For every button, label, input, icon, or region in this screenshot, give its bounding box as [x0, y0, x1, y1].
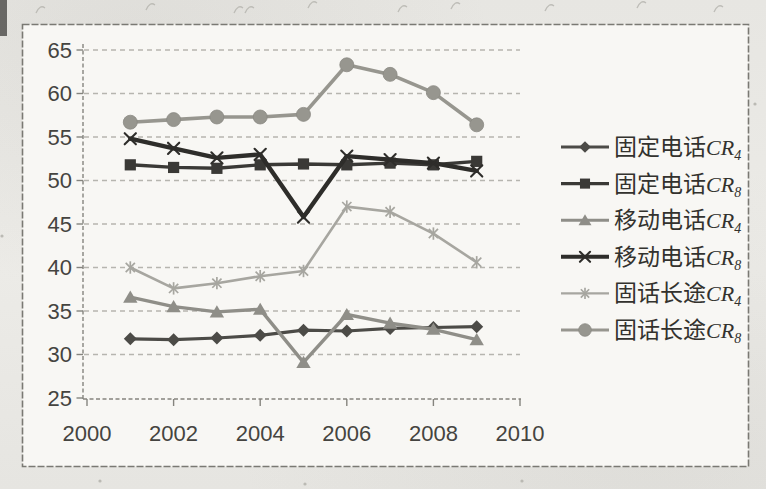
legend-label-mobile-phone-cr4: 移动电话CR4: [614, 208, 741, 236]
square-marker: [125, 159, 136, 170]
circle-icon: [579, 324, 592, 337]
circle-marker: [167, 113, 181, 127]
scan-speck: [753, 102, 756, 105]
y-axis-tick-label: 45: [48, 212, 72, 237]
scan-mark: [308, 2, 317, 8]
circle-marker: [123, 115, 137, 129]
y-axis-tick-label: 60: [48, 81, 72, 106]
y-axis-tick-label: 40: [48, 255, 72, 280]
scan-mark: [714, 6, 723, 12]
scan-mark: [545, 5, 554, 11]
square-marker: [168, 162, 179, 173]
circle-marker: [297, 107, 311, 121]
legend-label-fixed-phone-cr4: 固定电话CR4: [614, 135, 741, 163]
scan-speck: [98, 479, 101, 482]
circle-marker: [253, 110, 267, 124]
legend-label-fixed-phone-cr8: 固定电话CR8: [614, 172, 741, 200]
line-chart: 2530354045505560652000200220042006200820…: [0, 0, 766, 489]
circle-marker: [470, 118, 484, 132]
legend-label-fixedline-longdistance-cr4: 固话长途CR4: [614, 281, 741, 309]
scan-speck: [0, 234, 3, 237]
square-marker: [471, 156, 482, 167]
x-axis-tick-label: 2000: [63, 421, 112, 446]
square-marker: [211, 163, 222, 174]
scan-mark: [36, 7, 45, 13]
y-axis-tick-label: 50: [48, 168, 72, 193]
scan-mark: [398, 6, 407, 12]
scan-speck: [303, 482, 306, 485]
scan-speck: [520, 479, 523, 482]
square-icon: [580, 179, 590, 189]
square-marker: [298, 158, 309, 169]
scan-mark: [234, 7, 243, 13]
y-axis-tick-label: 65: [48, 38, 72, 63]
circle-marker: [210, 110, 224, 124]
y-axis-tick-label: 55: [48, 125, 72, 150]
scan-smudge: [0, 0, 7, 36]
legend-label-fixedline-longdistance-cr8: 固话长途CR8: [614, 318, 741, 346]
x-axis-tick-label: 2002: [149, 421, 198, 446]
x-axis-tick-label: 2006: [322, 421, 371, 446]
scan-mark: [451, 3, 460, 9]
y-axis-tick-label: 30: [48, 342, 72, 367]
scanned-page: 2530354045505560652000200220042006200820…: [0, 0, 766, 489]
circle-marker: [340, 58, 354, 72]
scan-mark: [245, 7, 254, 13]
circle-marker: [383, 67, 397, 81]
y-axis-tick-label: 25: [48, 386, 72, 411]
x-axis-tick-label: 2010: [496, 421, 545, 446]
x-axis-tick-label: 2004: [236, 421, 285, 446]
legend-label-mobile-phone-cr8: 移动电话CR8: [614, 245, 741, 273]
scan-mark: [637, 2, 646, 8]
scan-mark: [146, 4, 155, 10]
x-axis-tick-label: 2008: [409, 421, 458, 446]
circle-marker: [426, 86, 440, 100]
y-axis-tick-label: 35: [48, 299, 72, 324]
